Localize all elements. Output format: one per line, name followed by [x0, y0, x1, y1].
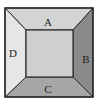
frustum-diagram: A B C D	[0, 0, 96, 103]
label-d: D	[9, 47, 17, 59]
center-face	[26, 30, 73, 77]
label-a: A	[44, 16, 52, 28]
label-b: B	[82, 53, 89, 65]
label-c: C	[44, 83, 51, 95]
